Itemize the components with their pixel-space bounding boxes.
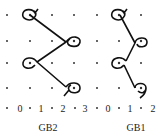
axis-number: 1 xyxy=(128,103,133,114)
axis-dot xyxy=(6,107,8,109)
grid-dot xyxy=(6,14,8,16)
axis-number: 0 xyxy=(18,103,23,114)
axis-dot xyxy=(96,107,98,109)
grid-dot xyxy=(51,40,53,42)
grid-dot xyxy=(73,14,75,16)
grid-dot xyxy=(140,87,142,89)
grid-dot xyxy=(51,62,53,64)
grid-dot xyxy=(140,14,142,16)
axis-number: 1 xyxy=(39,103,44,114)
axis-number: 2 xyxy=(151,103,156,114)
axis-numbers: 0123012 xyxy=(18,103,156,114)
grid-dot xyxy=(6,62,8,64)
grid-dot xyxy=(96,87,98,89)
grid-dot xyxy=(96,40,98,42)
grid-dots xyxy=(6,14,142,89)
grid-dot xyxy=(118,87,120,89)
axis-dot xyxy=(74,107,76,109)
grid-dot xyxy=(140,62,142,64)
grid-dot xyxy=(51,14,53,16)
axis-dot xyxy=(51,107,53,109)
axis-number: 2 xyxy=(61,103,66,114)
grid-dot xyxy=(73,40,75,42)
grid-dot xyxy=(118,40,120,42)
axis-number: 3 xyxy=(83,103,88,114)
grid-dot xyxy=(140,40,142,42)
axis-number: 0 xyxy=(106,103,111,114)
axis-dot xyxy=(118,107,120,109)
grid-dot xyxy=(6,40,8,42)
axis-dots xyxy=(6,107,142,109)
grid-dot xyxy=(118,62,120,64)
axis-dot xyxy=(140,107,142,109)
grid-dot xyxy=(29,40,31,42)
grid-dot xyxy=(29,87,31,89)
gb2-lapping-path xyxy=(23,9,80,96)
gb1-label: GB1 xyxy=(127,122,146,133)
grid-dot xyxy=(96,14,98,16)
gb1-lapping-path xyxy=(112,9,147,98)
lapping-diagram: 0123012 xyxy=(0,0,166,139)
grid-dot xyxy=(29,62,31,64)
axis-dot xyxy=(29,107,31,109)
grid-dot xyxy=(51,87,53,89)
grid-dot xyxy=(73,62,75,64)
grid-dot xyxy=(96,62,98,64)
grid-dot xyxy=(6,87,8,89)
gb2-label: GB2 xyxy=(39,122,58,133)
grid-dot xyxy=(73,87,75,89)
